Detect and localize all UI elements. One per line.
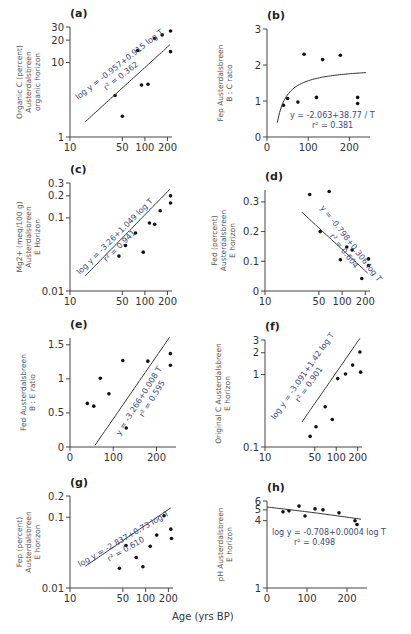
- y-tick-label: 3: [255, 24, 261, 35]
- panel-label: (e): [70, 318, 88, 331]
- svg-text:y = -0.798+0.306 log T: y = -0.798+0.306 log T: [318, 204, 383, 284]
- data-point: [134, 556, 138, 560]
- panel-e: (e)00.511.50100200Fed AusterdalsbreenB :…: [19, 318, 176, 463]
- data-point: [155, 533, 159, 537]
- x-tick-label: 10: [64, 142, 77, 153]
- data-point: [339, 53, 343, 57]
- data-point: [344, 372, 348, 376]
- x-tick-label: 200: [147, 452, 166, 463]
- x-tick-label: 200: [356, 296, 375, 307]
- fit-equation: log y = -0.708+0.0004 log Tr² = 0.498: [272, 528, 386, 547]
- panel-label: (f): [265, 320, 280, 333]
- x-tick-label: 0: [67, 452, 73, 463]
- x-tick-label: 100: [135, 142, 154, 153]
- x-tick-label: 50: [116, 142, 129, 153]
- data-point: [158, 209, 162, 213]
- data-point: [117, 254, 121, 258]
- x-tick-label: 200: [340, 142, 359, 153]
- data-point: [169, 29, 173, 33]
- data-point: [330, 418, 334, 422]
- y-tick-label: 0.3: [243, 196, 259, 207]
- fit-equation: y = -2.063+38.77 / Tr² = 0.381: [290, 111, 375, 130]
- x-tick-label: 100: [135, 296, 154, 307]
- figure-canvas: (a)11020301050100200Organic C (percent)A…: [0, 0, 411, 634]
- data-point: [169, 527, 173, 531]
- fit-equation: y = -0.798+0.306 log Tr² = 0.604: [311, 204, 384, 290]
- y-axis-label: Organic C (percent)Austerdalsbreenorgani…: [15, 45, 42, 119]
- data-point: [313, 507, 317, 511]
- data-point: [303, 514, 307, 518]
- y-tick-label: 0.01: [42, 286, 64, 297]
- data-point: [359, 370, 363, 374]
- x-tick-label: 200: [159, 593, 178, 604]
- x-tick-label: 10: [64, 296, 77, 307]
- panel-label: (h): [267, 481, 285, 494]
- y-tick-label: 0: [58, 442, 64, 453]
- data-point: [146, 83, 150, 87]
- data-point: [339, 258, 343, 262]
- data-point: [315, 96, 319, 100]
- y-tick-label: 0.1: [48, 212, 64, 223]
- x-tick-label: 200: [158, 296, 177, 307]
- y-tick-label: 0.2: [48, 491, 64, 502]
- x-tick-label: 100: [333, 296, 352, 307]
- y-tick-label: 0.5: [48, 407, 64, 418]
- data-point: [308, 435, 312, 439]
- data-point: [170, 537, 174, 541]
- y-tick-label: 1: [255, 583, 261, 594]
- data-point: [141, 565, 145, 569]
- data-point: [281, 510, 285, 514]
- y-axis-label: Original C AusterdalsbreenE horizon: [214, 343, 232, 444]
- svg-text:log y = -0.708+0.0004 log T: log y = -0.708+0.0004 log T: [272, 528, 386, 537]
- y-tick-label: 3: [253, 335, 259, 346]
- y-axis-label: Fep (percent)AusterdalsbreenE horizon: [15, 511, 42, 573]
- x-tick-label: 200: [337, 593, 356, 604]
- y-tick-label: 0.1: [48, 512, 64, 523]
- panel-label: (b): [267, 9, 285, 22]
- y-axis-label: Mg2+ (meq/100 g)AusterdalsbreenE Horizon: [15, 201, 42, 272]
- x-tick-label: 200: [158, 142, 177, 153]
- x-tick-label: 0: [264, 142, 270, 153]
- fit-equation: log y = -0.957+0.915 log Tr² = 0.362: [74, 27, 172, 109]
- data-point: [98, 376, 102, 380]
- data-point: [146, 359, 150, 363]
- data-point: [336, 377, 340, 381]
- x-tick-label: 100: [297, 593, 316, 604]
- x-tick-label: 10: [259, 296, 272, 307]
- data-point: [321, 58, 325, 62]
- x-tick-label: 50: [117, 593, 130, 604]
- data-point: [351, 363, 355, 367]
- x-tick-label: 0: [264, 593, 270, 604]
- data-point: [86, 402, 90, 406]
- y-tick-label: 20: [51, 35, 64, 46]
- y-axis-label: Fed AusterdalsbreenB : E ratio: [19, 354, 37, 431]
- panel-label: (c): [70, 163, 87, 176]
- fit-equation: log y = -3.26+1.049 log Tr² = 0.941: [75, 197, 162, 284]
- data-point: [297, 504, 301, 508]
- svg-text:y = -3.266+0.008 T: y = -3.266+0.008 T: [114, 365, 164, 437]
- panel-label: (g): [70, 476, 88, 489]
- panel-f: (f)0.11231050100200Original C Austerdals…: [214, 320, 367, 463]
- data-point: [356, 96, 360, 100]
- panel-label: (d): [265, 170, 283, 183]
- data-point: [323, 405, 327, 409]
- data-point: [148, 221, 152, 225]
- data-point: [353, 519, 357, 523]
- fit-equation: log y = -3.091+1.42 log Tr² = 0.901: [269, 331, 344, 427]
- y-tick-label: 10: [51, 57, 64, 68]
- panel-b: (b)01230100200Fep AusterdalsbreenB : C r…: [216, 9, 375, 153]
- data-point: [92, 404, 96, 408]
- y-tick-label: 4: [255, 515, 261, 526]
- x-tick-label: 50: [308, 452, 321, 463]
- data-point: [121, 359, 125, 363]
- x-axis-label: Age (yrs BP): [172, 611, 234, 622]
- y-axis-label: Fep AusterdalsbreenB : C ratio: [216, 44, 234, 121]
- data-point: [107, 392, 111, 396]
- panel-h: (h)14560100200pH AusterdalsbreenE horizo…: [216, 481, 386, 604]
- y-axis-label: pH AusterdalsbreenE horizon: [216, 507, 234, 581]
- x-tick-label: 100: [136, 593, 155, 604]
- data-point: [321, 508, 325, 512]
- y-tick-label: 1.5: [48, 339, 64, 350]
- data-point: [141, 250, 145, 254]
- svg-text:log y = -3.26+1.049 log T: log y = -3.26+1.049 log T: [75, 197, 155, 277]
